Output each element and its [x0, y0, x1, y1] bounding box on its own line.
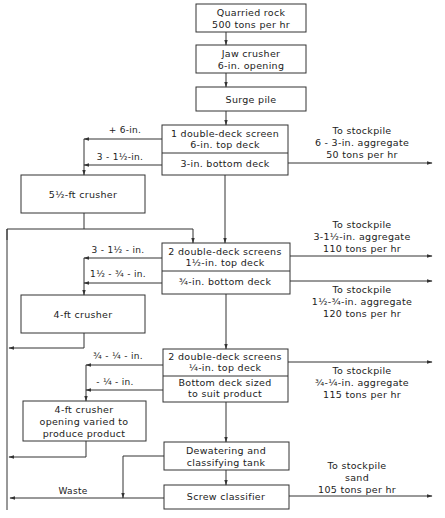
node-label: Screw classifier	[187, 491, 265, 502]
label-waste: Waste	[58, 486, 87, 496]
node-label: classifying tank	[187, 457, 266, 468]
node-label: to suit product	[188, 388, 262, 399]
svg-text:120 tons per hr: 120 tons per hr	[323, 308, 401, 319]
node-label: 6-in. opening	[218, 60, 284, 71]
node-label: opening varied to	[40, 416, 129, 427]
svg-text:To stockpile: To stockpile	[332, 125, 392, 136]
node-label: 3-in. bottom deck	[180, 158, 269, 169]
output-2: To stockpile 3-1½-in. aggregate 110 tons…	[313, 219, 410, 254]
node-label: 6-in. top deck	[190, 139, 260, 150]
flow-diagram: Quarried rock 500 tons per hr Jaw crushe…	[0, 0, 445, 518]
node-label: 1½-in. top deck	[185, 257, 264, 268]
node-label: 5½-ft crusher	[49, 189, 117, 200]
node-label: Jaw crusher	[221, 48, 281, 59]
label-plus-6-in: + 6-in.	[109, 125, 142, 135]
node-jaw-crusher: Jaw crusher 6-in. opening	[196, 45, 306, 73]
node-label: Quarried rock	[217, 7, 286, 18]
label-1half-3q-in: 1½ - ¾ - in.	[90, 269, 146, 279]
node-label: 1 double-deck screen	[171, 128, 279, 139]
node-label: produce product	[43, 428, 126, 439]
svg-text:sand: sand	[345, 472, 369, 483]
output-3: To stockpile 1½-¾-in. aggregate 120 tons…	[312, 284, 412, 319]
label-3q-1q-in: ¾ - ¼ - in.	[93, 351, 143, 361]
node-crusher-3: 4-ft crusher opening varied to produce p…	[23, 401, 146, 441]
output-5: To stockpile sand 105 tons per hr	[318, 460, 396, 495]
node-label: ¼-in. top deck	[189, 362, 262, 373]
node-label: Dewatering and	[186, 445, 266, 456]
node-label: Surge pile	[226, 94, 277, 105]
svg-text:To stockpile: To stockpile	[332, 284, 392, 295]
svg-text:115 tons per hr: 115 tons per hr	[323, 389, 401, 400]
node-label: 500 tons per hr	[212, 19, 290, 30]
label-3-1half-in: 3 - 1½-in.	[97, 152, 143, 162]
svg-text:6 - 3-in. aggregate: 6 - 3-in. aggregate	[315, 137, 409, 148]
node-label: ¾-in. bottom deck	[179, 276, 272, 287]
svg-text:1½-¾-in. aggregate: 1½-¾-in. aggregate	[312, 296, 412, 307]
node-label: 2 double-deck screens	[168, 246, 281, 257]
node-crusher-2: 4-ft crusher	[21, 295, 145, 333]
output-4: To stockpile ¾-¼-in. aggregate 115 tons …	[315, 365, 409, 400]
output-1: To stockpile 6 - 3-in. aggregate 50 tons…	[315, 125, 409, 160]
node-dewatering-tank: Dewatering and classifying tank	[164, 442, 289, 470]
svg-text:105 tons per hr: 105 tons per hr	[318, 484, 396, 495]
node-label: Bottom deck sized	[178, 377, 271, 388]
node-label: 4-ft crusher	[55, 404, 114, 415]
svg-text:50 tons per hr: 50 tons per hr	[326, 149, 398, 160]
node-label: 4-ft crusher	[54, 309, 113, 320]
svg-text:110 tons per hr: 110 tons per hr	[323, 243, 401, 254]
node-screen-3: 2 double-deck screens ¼-in. top deck Bot…	[163, 349, 288, 402]
node-label: 2 double-deck screens	[168, 351, 281, 362]
svg-text:To stockpile: To stockpile	[332, 219, 392, 230]
svg-text:To stockpile: To stockpile	[332, 365, 392, 376]
svg-text:¾-¼-in. aggregate: ¾-¼-in. aggregate	[315, 377, 409, 388]
label-minus-1q-in: - ¼ - in.	[96, 377, 134, 387]
svg-text:To stockpile: To stockpile	[327, 460, 387, 471]
node-screen-1: 1 double-deck screen 6-in. top deck 3-in…	[162, 125, 288, 175]
node-surge-pile: Surge pile	[196, 87, 306, 111]
label-3-1half-in-2: 3 - 1½ - in.	[92, 245, 145, 255]
node-screen-2: 2 double-deck screens 1½-in. top deck ¾-…	[162, 243, 290, 294]
node-crusher-1: 5½-ft crusher	[21, 175, 145, 213]
node-quarried-rock: Quarried rock 500 tons per hr	[196, 4, 306, 32]
svg-text:3-1½-in. aggregate: 3-1½-in. aggregate	[313, 231, 410, 242]
node-screw-classifier: Screw classifier	[164, 485, 289, 509]
